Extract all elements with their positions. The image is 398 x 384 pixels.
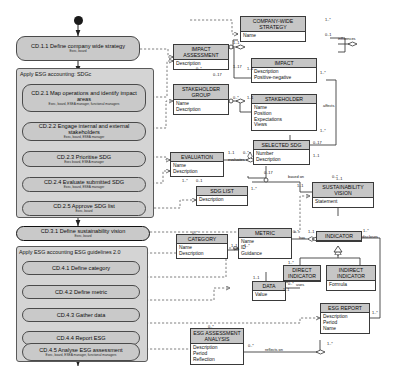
- activity-step-cd-4-2[interactable]: CD.4.2 Define metric: [22, 285, 140, 299]
- diagram-canvas: CD.1.1 Define company wide strategy Exec…: [0, 0, 398, 384]
- multiplicity: 1..*: [327, 341, 333, 346]
- multiplicity: 0..1: [196, 178, 203, 183]
- multiplicity: 1..1: [247, 95, 254, 100]
- activity-step-roles: Exec board, ESEA manager: [64, 161, 104, 165]
- multiplicity: 1..1: [313, 153, 320, 158]
- multiplicity: 1..1: [336, 176, 343, 181]
- class-stakeholder[interactable]: STAKEHOLDER Name Position Expectations V…: [251, 94, 317, 131]
- multiplicity: 0..*: [233, 95, 239, 100]
- activity-start-node: [74, 16, 83, 25]
- class-attribute: Name: [243, 33, 303, 39]
- class-name: METRIC: [239, 229, 291, 238]
- rel-label-uses: uses: [296, 282, 304, 287]
- activity-step-roles: Exec, board, ESEA manager: [64, 136, 105, 140]
- activity-step-cd-2-2[interactable]: CD.2.2 Engage internal and external stak…: [22, 122, 146, 141]
- multiplicity: 1..1: [231, 243, 238, 248]
- class-attributes: Description Period Name: [321, 313, 369, 333]
- activity-step-cd-2-3[interactable]: CD.2.3 Prioritise SDG Exec board, ESEA m…: [22, 151, 146, 167]
- class-attributes: Name Position Expectations Views: [252, 104, 316, 129]
- class-name: SUSTAINABILITY VISION: [313, 183, 373, 198]
- activity-step-cd-4-5[interactable]: CD.4.5 Analyse ESG assessment Exec, boar…: [22, 343, 140, 361]
- activity-step-label: CD.4.2 Define metric: [52, 289, 110, 295]
- class-impact[interactable]: IMPACT Description Positive-negative: [251, 58, 317, 83]
- class-attributes: Name Description: [177, 244, 227, 258]
- rel-label-discloses: discloses: [362, 234, 378, 239]
- class-name: DATA: [253, 282, 285, 291]
- class-category[interactable]: CATEGORY Name Description: [176, 234, 228, 259]
- class-name: SELECTED SDG: [254, 141, 309, 150]
- activity-step-cd-4-1[interactable]: CD.4.1 Define category: [22, 261, 140, 275]
- activity-step-label: CD.4.3 Gather data: [54, 312, 109, 318]
- class-attributes: Statement: [313, 198, 373, 206]
- class-attribute: Statement: [315, 199, 371, 205]
- multiplicity: 1..*: [363, 228, 369, 233]
- class-data[interactable]: DATA Value: [252, 281, 286, 301]
- multiplicity: 0..17: [313, 140, 322, 145]
- multiplicity: 1..*: [251, 186, 257, 191]
- class-evaluation[interactable]: EVALUATION Name Description: [170, 152, 224, 177]
- multiplicity: 1..*: [288, 260, 294, 265]
- multiplicity: 1..*: [244, 243, 250, 248]
- class-stakeholder-group[interactable]: STAKEHOLDER GROUP Name Description: [173, 84, 229, 115]
- activity-step-cd-1-1[interactable]: CD.1.1 Define company wide strategy Exec…: [16, 36, 140, 61]
- class-name: COMPANY-WIDE STRATEGY: [241, 17, 305, 32]
- class-name: CATEGORY: [177, 235, 227, 244]
- activity-step-roles: Exec, board, ESEA manager: [64, 186, 105, 190]
- multiplicity: 1..*: [320, 70, 326, 75]
- rel-label-reflects-on: reflects on: [265, 347, 283, 352]
- class-esg-assessment-analysis[interactable]: ESG ASSESSMENT ANALYSIS Description Peri…: [190, 328, 244, 365]
- multiplicity: 1..*: [325, 17, 331, 22]
- multiplicity: 0..*: [293, 229, 299, 234]
- multiplicity: 0..17: [264, 170, 273, 175]
- class-indirect-indicator[interactable]: INDIRECT INDICATOR Formula: [326, 265, 376, 291]
- rel-label-evaluates: evaluates: [228, 157, 245, 162]
- activity-step-roles: Exec, board: [75, 210, 92, 214]
- multiplicity: 1..*: [320, 128, 326, 133]
- multiplicity: 1..1: [283, 287, 290, 292]
- class-company-wide-strategy[interactable]: COMPANY-WIDE STRATEGY Name: [240, 16, 306, 42]
- class-indicator[interactable]: INDICATOR: [316, 231, 362, 242]
- class-name: ESG REPORT: [321, 304, 369, 313]
- activity-step-roles: Exec, board, ESEA manager, functional ma…: [49, 103, 120, 107]
- activity-step-cd-2-4[interactable]: CD.2.4 Evaluate submitted SDG Exec, boar…: [22, 177, 146, 192]
- activity-step-cd-2-5[interactable]: CD.2.5 Approve SDG list Exec, board: [22, 201, 146, 216]
- class-esg-report[interactable]: ESG REPORT Description Period Name: [320, 303, 370, 334]
- activity-step-roles: Exec, board: [69, 50, 86, 54]
- class-attributes: Name Description: [174, 100, 228, 114]
- activity-step-cd-4-3[interactable]: CD.4.3 Gather data: [22, 308, 140, 322]
- class-direct-indicator[interactable]: DIRECT INDICATOR: [283, 265, 321, 282]
- class-name: STAKEHOLDER: [252, 95, 316, 104]
- activity-step-cd-3-1[interactable]: CD.3.1 Define sustainability vision Exec…: [16, 226, 150, 241]
- class-attribute: Name: [323, 326, 367, 332]
- class-name: STAKEHOLDER GROUP: [174, 85, 228, 100]
- class-selected-sdg[interactable]: SELECTED SDG Number Description: [253, 140, 310, 165]
- class-attributes: Formula: [327, 281, 375, 289]
- class-name: ESG ASSESSMENT ANALYSIS: [191, 329, 243, 344]
- class-name: INDIRECT INDICATOR: [327, 266, 375, 281]
- class-attributes: Name Description: [171, 162, 223, 176]
- class-sustainability-vision[interactable]: SUSTAINABILITY VISION Statement: [312, 182, 374, 208]
- class-attribute: Description: [199, 197, 245, 203]
- class-attributes: Description Positive-negative: [252, 68, 316, 82]
- multiplicity: 1..1: [297, 183, 304, 188]
- class-attribute: Value: [255, 292, 283, 298]
- multiplicity: 1..1: [247, 66, 254, 71]
- multiplicity: 0..*: [192, 230, 198, 235]
- class-sdg-list[interactable]: SDG LIST Description: [196, 186, 248, 206]
- activity-step-cd-2-1[interactable]: CD.2.1 Map operations and identify impac…: [22, 84, 146, 112]
- multiplicity: 1..1: [233, 40, 240, 45]
- class-attributes: Number Description: [254, 150, 309, 164]
- rel-label-based-on: based on: [288, 174, 304, 179]
- class-attributes: Value: [253, 291, 285, 299]
- activity-step-label: CD.4.4 Report ESG: [53, 335, 108, 341]
- class-attributes: Name: [241, 32, 305, 40]
- multiplicity: 0..*: [196, 66, 202, 71]
- activity-step-label: CD.4.1 Define category: [49, 265, 113, 271]
- class-attribute: Guidance: [241, 251, 289, 257]
- class-name: IMPACT: [252, 59, 316, 68]
- activity-step-label: CD.2.2 Engage internal and external stak…: [23, 123, 145, 136]
- class-attributes: Description Period Reflection: [191, 344, 243, 364]
- class-name: IMPACT ASSESSMENT: [174, 45, 228, 60]
- multiplicity: 0..*: [208, 324, 214, 329]
- multiplicity: 0..1: [325, 32, 332, 37]
